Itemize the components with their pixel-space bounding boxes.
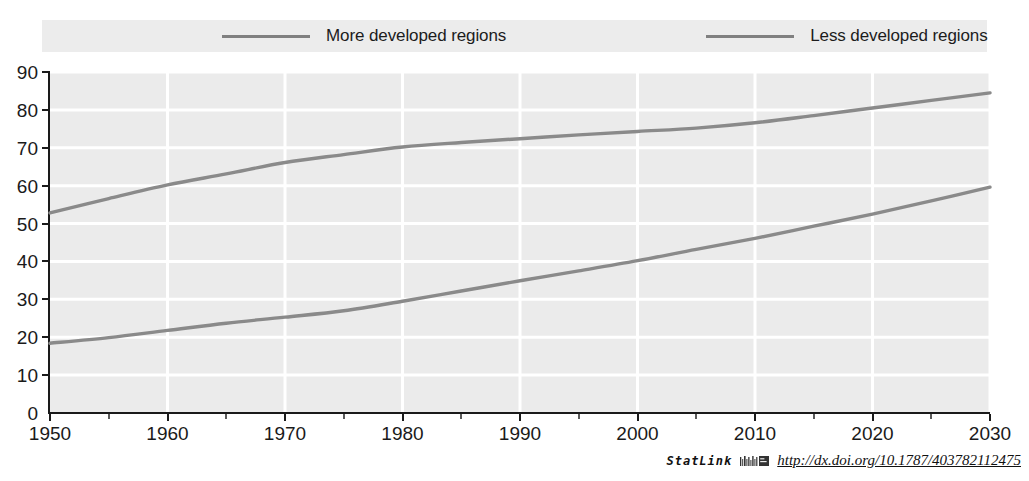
chart-legend: More developed regions Less developed re…	[42, 20, 987, 52]
gridlines	[50, 72, 990, 413]
chart-figure: More developed regions Less developed re…	[0, 0, 1029, 481]
line-swatch-icon	[706, 35, 794, 38]
x-axis-label: 1990	[499, 424, 541, 443]
x-tick-mark	[519, 414, 521, 421]
x-tick-mark	[578, 414, 580, 419]
legend-label-less-developed-regions: Less developed regions	[810, 26, 987, 46]
y-axis-label: 80	[0, 101, 38, 120]
y-tick-mark	[42, 185, 50, 187]
x-tick-mark	[872, 414, 874, 421]
x-tick-mark	[637, 414, 639, 421]
y-axis-line	[48, 72, 50, 414]
statlink-footer: StatLink http://dx.doi.org/10.1787/40378…	[666, 452, 1021, 469]
y-tick-mark	[42, 147, 50, 149]
x-tick-mark	[930, 414, 932, 419]
y-axis-label: 40	[0, 252, 38, 271]
x-tick-mark	[754, 414, 756, 421]
x-axis-label: 1980	[381, 424, 423, 443]
legend-label-more-developed-regions: More developed regions	[326, 26, 506, 46]
y-axis-label: 20	[0, 328, 38, 347]
y-axis-label: 70	[0, 139, 38, 158]
x-tick-mark	[695, 414, 697, 419]
legend-item-less-developed-regions[interactable]: Less developed regions	[706, 26, 987, 46]
y-tick-mark	[42, 374, 50, 376]
x-tick-mark	[460, 414, 462, 419]
statlink-label: StatLink	[666, 454, 732, 468]
y-tick-mark	[42, 109, 50, 111]
statlink-barcode-icon	[740, 454, 770, 467]
y-axis-label: 60	[0, 177, 38, 196]
y-tick-mark	[42, 336, 50, 338]
x-axis-label: 2010	[734, 424, 776, 443]
x-axis-label: 2030	[969, 424, 1011, 443]
y-tick-mark	[42, 260, 50, 262]
line-swatch-icon	[222, 35, 310, 38]
y-tick-mark	[42, 223, 50, 225]
x-axis-label: 2020	[851, 424, 893, 443]
x-axis-label: 1950	[29, 424, 71, 443]
x-axis-label: 1960	[146, 424, 188, 443]
y-tick-mark	[42, 71, 50, 73]
y-axis-label: 90	[0, 63, 38, 82]
legend-item-more-developed-regions[interactable]: More developed regions	[222, 26, 506, 46]
x-tick-mark	[108, 414, 110, 419]
statlink-url-link[interactable]: http://dx.doi.org/10.1787/403782112475	[777, 452, 1021, 469]
x-tick-mark	[225, 414, 227, 419]
x-tick-mark	[989, 414, 991, 421]
y-axis-label: 30	[0, 290, 38, 309]
y-axis-label: 0	[0, 404, 38, 423]
x-axis-label: 2000	[616, 424, 658, 443]
x-tick-mark	[343, 414, 345, 419]
x-tick-mark	[813, 414, 815, 419]
y-tick-mark	[42, 298, 50, 300]
plot-area	[50, 72, 990, 413]
x-tick-mark	[402, 414, 404, 421]
x-tick-mark	[284, 414, 286, 421]
y-axis-label: 10	[0, 366, 38, 385]
x-tick-mark	[49, 414, 51, 421]
y-axis-label: 50	[0, 215, 38, 234]
x-tick-mark	[167, 414, 169, 421]
x-axis-label: 1970	[264, 424, 306, 443]
